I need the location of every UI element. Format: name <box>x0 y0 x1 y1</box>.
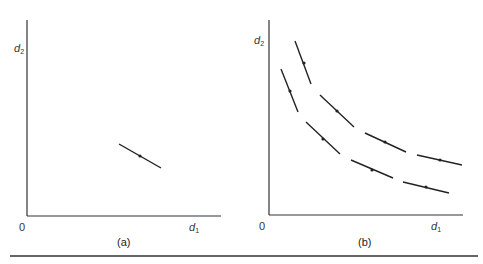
point-marker <box>302 61 305 64</box>
point-marker <box>438 158 441 161</box>
figure-canvas <box>0 0 483 264</box>
point-marker <box>335 109 338 112</box>
point-marker <box>370 168 373 171</box>
panel-b-caption: (b) <box>358 236 371 248</box>
panel-a-origin-label: 0 <box>19 221 25 233</box>
panel-b-segments <box>281 41 462 193</box>
panel-a-caption: (a) <box>117 236 130 248</box>
panel-a-y-label: d2 <box>14 42 24 55</box>
point-marker <box>383 140 386 143</box>
panel-a-axes <box>27 20 221 216</box>
panel-b-y-label: d2 <box>254 34 264 47</box>
panel-b-origin-label: 0 <box>259 220 265 232</box>
point-marker <box>288 89 291 92</box>
panel-b-x-label: d1 <box>431 220 441 233</box>
point-marker <box>424 185 427 188</box>
point-marker <box>321 137 324 140</box>
panel-a-x-label: d1 <box>189 221 199 234</box>
point-marker <box>138 154 141 157</box>
panel-a-segments <box>119 144 161 168</box>
